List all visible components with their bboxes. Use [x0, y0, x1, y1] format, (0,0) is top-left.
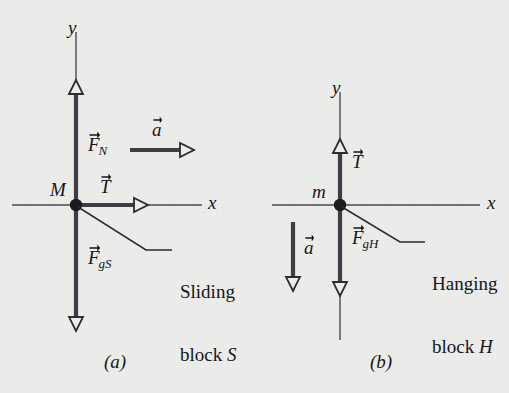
a-acceleration-symbol: a [152, 119, 162, 140]
a-normal-force-vector [69, 80, 83, 205]
a-callout-line-2-text: block [180, 344, 227, 365]
b-acceleration-symbol: a [304, 237, 314, 258]
b-tension-force-symbol: T [352, 151, 363, 172]
a-x-axis-label: x [208, 193, 216, 212]
a-callout-leader-line [78, 207, 172, 250]
b-gravity-force-symbol: F [352, 227, 364, 248]
a-gravity-force-subscript: gS [99, 256, 112, 271]
b-tension-force-label: T [352, 152, 363, 171]
a-callout-block-id: S [227, 344, 237, 365]
b-callout-block-id: H [479, 336, 493, 357]
a-callout-text: Sliding block S [180, 238, 236, 387]
b-acceleration-label: a [304, 238, 314, 257]
a-tension-force-vector [76, 198, 148, 212]
b-tension-force-vector [333, 139, 347, 205]
b-gravity-force-subscript: gH [363, 236, 379, 251]
a-gravity-force-symbol: F [88, 247, 100, 268]
a-gravity-force-label: F gS [88, 248, 113, 267]
b-panel-caption: (b) [370, 352, 392, 371]
a-y-axis-label: y [68, 18, 76, 37]
b-mass-label: m [312, 182, 326, 201]
b-callout-line-2: block H [432, 336, 497, 357]
b-gravity-force-vector [333, 205, 347, 296]
a-mass-label: M [50, 180, 66, 199]
b-callout-line-2-text: block [432, 336, 479, 357]
b-acceleration-vector [286, 222, 300, 291]
a-tension-force-label: T [100, 177, 111, 196]
a-panel-caption: (a) [104, 352, 126, 371]
a-normal-force-label: F N [88, 135, 108, 154]
b-callout-line-1: Hanging [432, 273, 497, 294]
a-callout-line-2: block S [180, 344, 236, 365]
b-y-axis-label: y [332, 78, 340, 97]
a-acceleration-label: a [152, 120, 162, 139]
a-callout-line-1: Sliding [180, 281, 236, 302]
a-normal-force-symbol: F [88, 134, 100, 155]
b-gravity-force-label: F gH [352, 228, 380, 247]
a-normal-force-subscript: N [99, 143, 108, 158]
a-acceleration-vector [130, 143, 194, 157]
b-x-axis-label: x [487, 193, 495, 212]
b-callout-text: Hanging block H [432, 230, 497, 379]
b-origin-dot [334, 199, 346, 211]
a-tension-force-symbol: T [100, 176, 111, 197]
a-gravity-force-vector [69, 205, 83, 331]
